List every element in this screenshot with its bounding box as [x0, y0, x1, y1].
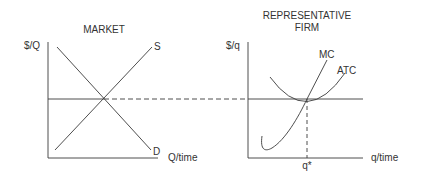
firm-title-line1: REPRESENTATIVE — [263, 10, 352, 21]
market-x-axis-label: Q/time — [168, 152, 198, 163]
q-star-label: q* — [302, 160, 312, 171]
atc-label: ATC — [337, 65, 356, 76]
firm-y-axis-label: $/q — [226, 40, 240, 51]
mc-curve — [262, 60, 327, 150]
market-title: MARKET — [83, 24, 125, 35]
firm-x-axis-label: q/time — [371, 152, 399, 163]
market-panel: MARKET $/Q Q/time D S — [24, 24, 198, 163]
mc-label: MC — [319, 49, 335, 60]
perfect-competition-diagram: MARKET $/Q Q/time D S REPRESENTATIVE FIR… — [0, 0, 423, 180]
firm-title-line2: FIRM — [295, 22, 319, 33]
market-y-axis-label: $/Q — [24, 40, 40, 51]
supply-label: S — [154, 41, 161, 52]
firm-panel: REPRESENTATIVE FIRM $/q q/time ATC MC q* — [226, 10, 399, 171]
demand-label: D — [153, 146, 160, 157]
